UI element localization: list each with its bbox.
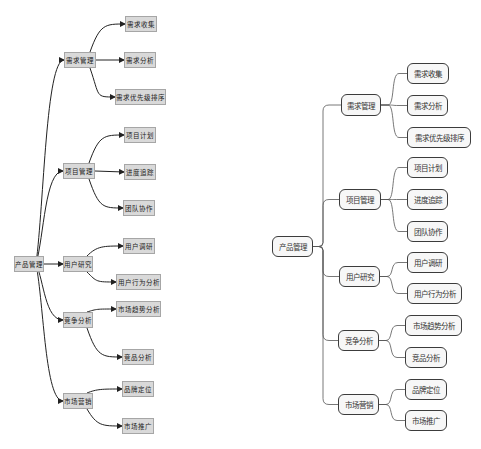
right-leaf-node[interactable]: 需求收集 xyxy=(407,63,449,84)
right-leaf-node[interactable]: 品牌定位 xyxy=(405,379,447,400)
left-branch-node[interactable]: 市场营销 xyxy=(63,393,93,409)
left-leaf-node[interactable]: 市场趋势分析 xyxy=(116,301,161,317)
right-leaf-node[interactable]: 市场推广 xyxy=(405,410,447,431)
connector-edge xyxy=(313,247,338,405)
right-leaf-node[interactable]: 需求分析 xyxy=(407,95,448,116)
right-leaf-node[interactable]: 用户调研 xyxy=(407,252,448,273)
right-branch-node[interactable]: 项目管理 xyxy=(339,189,381,210)
connector-edge xyxy=(380,263,407,277)
connector-edge xyxy=(380,277,407,294)
left-branch-node[interactable]: 用户研究 xyxy=(63,256,93,272)
left-branch-node[interactable]: 项目管理 xyxy=(63,163,95,179)
left-leaf-node[interactable]: 需求分析 xyxy=(124,52,156,68)
connector-edge xyxy=(313,247,339,277)
connector-edge xyxy=(87,409,122,426)
connector-edge xyxy=(89,179,123,208)
connector-edge xyxy=(90,24,125,52)
left-leaf-node[interactable]: 需求收集 xyxy=(125,16,157,32)
connector-edge xyxy=(381,74,407,106)
connector-edge xyxy=(36,264,63,401)
connector-edge xyxy=(379,390,405,405)
connector-edge xyxy=(36,60,64,264)
left-leaf-node[interactable]: 需求优先级排序 xyxy=(115,89,166,105)
connector-edge xyxy=(313,200,339,247)
left-leaf-node[interactable]: 团队协作 xyxy=(123,200,155,216)
connector-edge xyxy=(87,246,123,256)
left-root-node[interactable]: 产品管理 xyxy=(14,256,44,272)
left-branch-node[interactable]: 需求管理 xyxy=(64,52,96,68)
right-branch-node[interactable]: 需求管理 xyxy=(341,94,381,116)
left-leaf-node[interactable]: 品牌定位 xyxy=(122,381,154,397)
left-leaf-node[interactable]: 项目计划 xyxy=(124,127,156,143)
right-branch-node[interactable]: 用户研究 xyxy=(339,266,380,287)
right-leaf-node[interactable]: 用户行为分析 xyxy=(407,283,462,304)
connector-edge xyxy=(313,105,341,247)
connector-edge xyxy=(379,326,405,341)
right-leaf-node[interactable]: 项目计划 xyxy=(407,157,448,178)
connector-edge xyxy=(379,341,405,358)
right-leaf-node[interactable]: 需求优先级排序 xyxy=(407,127,471,148)
connector-edge xyxy=(89,135,124,163)
left-leaf-node[interactable]: 进度追踪 xyxy=(124,164,156,180)
right-leaf-node[interactable]: 进度追踪 xyxy=(407,189,448,210)
left-leaf-node[interactable]: 竞品分析 xyxy=(122,349,154,365)
right-root-node[interactable]: 产品管理 xyxy=(272,236,313,257)
connector-edge xyxy=(90,68,115,97)
connector-edge xyxy=(87,272,116,282)
right-leaf-node[interactable]: 市场趋势分析 xyxy=(405,315,462,336)
left-leaf-node[interactable]: 市场推广 xyxy=(122,418,154,434)
connector-edge xyxy=(381,168,407,200)
connector-edge xyxy=(87,328,122,357)
right-branch-node[interactable]: 竞争分析 xyxy=(338,330,379,351)
right-branch-node[interactable]: 市场营销 xyxy=(338,394,379,415)
connector-edge xyxy=(95,171,124,172)
connector-edge xyxy=(379,405,405,421)
left-leaf-node[interactable]: 用户行为分析 xyxy=(116,274,161,290)
connector-edge xyxy=(381,200,407,232)
left-leaf-node[interactable]: 用户调研 xyxy=(123,238,155,254)
connector-edge xyxy=(381,105,407,138)
left-branch-node[interactable]: 竞争分析 xyxy=(63,312,93,328)
right-leaf-node[interactable]: 团队协作 xyxy=(407,221,448,242)
right-leaf-node[interactable]: 竞品分析 xyxy=(405,347,447,368)
connector-edge xyxy=(313,247,338,341)
